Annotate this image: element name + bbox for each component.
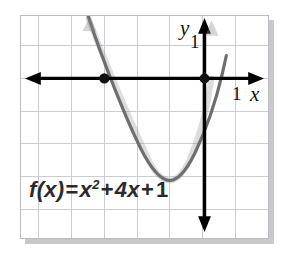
graph-figure: y 1 x 1 f(x)=x2+4x+1 — [0, 0, 292, 259]
equation-equals: = — [64, 177, 79, 202]
x-axis — [25, 72, 264, 85]
equation-term3: 1 — [155, 177, 170, 202]
coordinate-grid-panel — [20, 15, 269, 239]
equation-term1-base: x — [80, 177, 93, 202]
equation-lhs: f(x) — [29, 177, 64, 202]
root-point-left — [99, 73, 109, 83]
equation-plus-1: + — [100, 177, 115, 202]
equation-term1-exponent: 2 — [92, 177, 100, 192]
function-equation-label: f(x)=x2+4x+1 — [29, 178, 170, 201]
x-axis-tick-label: 1 — [232, 84, 242, 103]
y-axis-label: y — [180, 18, 189, 39]
equation-term2: 4x — [115, 177, 140, 202]
equation-plus-2: + — [140, 177, 155, 202]
x-axis-label: x — [250, 84, 259, 105]
plot-layer — [21, 16, 268, 238]
root-point-right — [200, 73, 210, 83]
y-axis-tick-label: 1 — [190, 32, 200, 51]
